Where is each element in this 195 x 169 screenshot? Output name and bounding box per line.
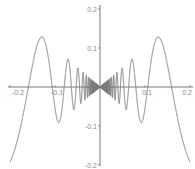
y-tick-label: 0.1 (87, 45, 97, 52)
x-tick-label: -0.2 (12, 89, 24, 96)
y-tick-label: -0.1 (85, 123, 97, 130)
y-tick-label: 0.2 (87, 6, 97, 13)
function-plot: -0.2-0.10.10.2 0.20.1-0.1-0.2 (0, 0, 195, 168)
y-tick-label: -0.2 (85, 162, 97, 169)
x-tick-label: 0.2 (182, 89, 192, 96)
